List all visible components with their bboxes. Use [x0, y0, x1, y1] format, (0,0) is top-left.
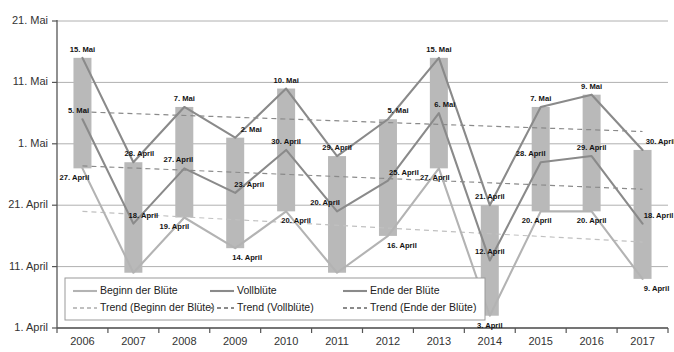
data-point-label: 9. April [644, 284, 669, 293]
data-point-label: 18. April [644, 211, 674, 220]
legend-label: Beginn der Blüte [100, 284, 178, 296]
series-line [82, 58, 642, 205]
x-tick-label: 2007 [121, 335, 145, 347]
legend-label: Vollblüte [237, 284, 277, 296]
chart-legend: Beginn der BlüteVollblüteEnde der BlüteT… [65, 278, 485, 320]
data-point-label: 27. April [60, 173, 90, 182]
bloom-span-bar [379, 119, 397, 236]
data-point-label: 10. Mai [273, 76, 298, 85]
x-tick-label: 2006 [70, 335, 94, 347]
y-axis-ticks: 1. April11. April21. April1. Mai11. Mai2… [8, 14, 57, 333]
data-point-label: 14. April [232, 253, 262, 262]
data-point-label: 2. Mai [241, 125, 262, 134]
data-point-label: 20. April [522, 216, 552, 225]
bloom-period-chart: 1. April11. April21. April1. Mai11. Mai2… [0, 0, 674, 352]
data-point-label: 12. April [475, 247, 505, 256]
legend-label: Ende der Blüte [370, 284, 440, 296]
data-point-label: 15. Mai [70, 45, 95, 54]
x-tick-label: 2012 [376, 335, 400, 347]
x-tick-label: 2011 [325, 335, 349, 347]
data-point-label: 25. April [389, 168, 419, 177]
y-tick-label: 21. April [8, 198, 48, 210]
data-point-label: 28. April [516, 149, 546, 158]
trend-line [82, 112, 642, 132]
y-tick-label: 21. Mai [12, 14, 48, 26]
x-tick-label: 2009 [223, 335, 247, 347]
legend-label: Trend (Beginn der Blüte) [100, 301, 215, 313]
bloom-span-bar [583, 95, 601, 212]
y-tick-label: 1. April [14, 321, 48, 333]
data-point-label: 20. April [577, 216, 607, 225]
x-tick-label: 2014 [478, 335, 502, 347]
x-tick-label: 2015 [528, 335, 552, 347]
data-point-label: 3. April [477, 321, 502, 330]
data-point-label: 29. April [577, 143, 607, 152]
data-point-label: 28. April [125, 149, 155, 158]
y-tick-label: 1. Mai [18, 137, 48, 149]
data-point-label: 30. April [646, 137, 674, 146]
data-point-label: 20. April [310, 198, 340, 207]
data-point-label: 27. April [163, 155, 193, 164]
data-point-label: 5. Mai [68, 106, 89, 115]
data-point-label: 30. April [271, 137, 301, 146]
x-tick-label: 2016 [579, 335, 603, 347]
data-point-label: 27. April [420, 173, 450, 182]
data-point-label: 29. April [322, 143, 352, 152]
data-point-label: 7. Mai [174, 94, 195, 103]
bar-group [73, 58, 651, 316]
x-tick-label: 2013 [427, 335, 451, 347]
series-lines [82, 58, 642, 316]
data-point-label: 7. Mai [530, 94, 551, 103]
data-point-label: 15. Mai [426, 45, 451, 54]
data-point-label: 5. Mai [387, 106, 408, 115]
chart-stage: 1. April11. April21. April1. Mai11. Mai2… [0, 0, 674, 352]
bloom-span-bar [328, 156, 346, 273]
trend-line [82, 166, 642, 189]
legend-label: Trend (Ende der Blüte) [370, 301, 476, 313]
data-point-label: 19. April [159, 222, 189, 231]
y-tick-label: 11. Mai [13, 75, 48, 87]
data-point-label: 20. April [281, 216, 311, 225]
data-point-label: 9. Mai [581, 82, 602, 91]
data-point-label: 21. April [475, 192, 505, 201]
data-point-label: 16. April [387, 241, 417, 250]
x-tick-label: 2017 [630, 335, 654, 347]
x-axis-ticks: 2006200720082009201020112012201320142015… [57, 328, 668, 347]
data-point-label: 18. April [129, 211, 159, 220]
x-tick-label: 2010 [274, 335, 298, 347]
bloom-span-bar [532, 107, 550, 211]
data-point-label: 23. April [234, 180, 264, 189]
x-tick-label: 2008 [172, 335, 196, 347]
legend-label: Trend (Vollblüte) [237, 301, 314, 313]
data-point-label: 6. Mai [434, 100, 455, 109]
y-tick-label: 11. April [9, 260, 48, 272]
